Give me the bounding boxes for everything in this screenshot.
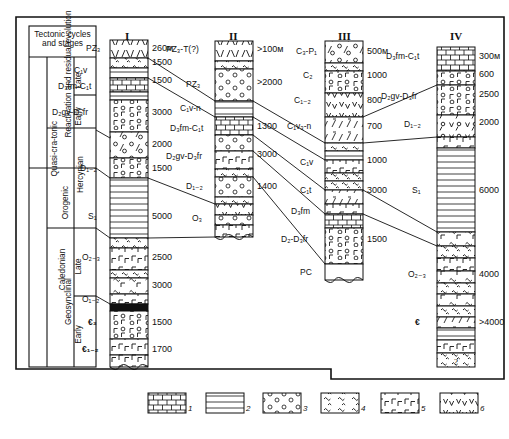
unit-label: O₁₋₂ bbox=[82, 295, 99, 304]
unit-thickness: 2000 bbox=[479, 118, 499, 127]
unit-label: D₁₋₂ bbox=[186, 182, 203, 191]
unit-label: D₂gv-D₃fr bbox=[166, 152, 202, 161]
unit-thickness: 3000 bbox=[257, 150, 277, 159]
unit-label: €₃ bbox=[88, 318, 97, 327]
unit-thickness: >4000 bbox=[479, 318, 504, 327]
svg-text:?: ? bbox=[454, 357, 458, 367]
unit-thickness: 5000 bbox=[152, 212, 172, 221]
unit-label: €₁₋₂ bbox=[82, 345, 99, 354]
unit-thickness: 2500 bbox=[479, 90, 499, 99]
unit-thickness: 4000 bbox=[479, 270, 499, 279]
unit-label: PZ₃ bbox=[86, 44, 100, 53]
unit-thickness: 800 bbox=[367, 96, 382, 105]
unit-thickness: >2000 bbox=[257, 78, 282, 87]
column-4-lithology: ? bbox=[437, 47, 475, 367]
unit-label: D₂-D₃fr bbox=[281, 235, 308, 244]
unit-label: D₃fm-C₁t bbox=[170, 124, 203, 133]
unit-thickness: 1500 bbox=[152, 76, 172, 85]
unit-thickness: 3000 bbox=[152, 281, 172, 290]
unit-label: O₂₋₃ bbox=[408, 270, 426, 279]
unit-label: € bbox=[415, 318, 420, 327]
unit-thickness: 1500 bbox=[152, 164, 172, 173]
unit-thickness: 1500 bbox=[152, 58, 172, 67]
column-header-3: III bbox=[338, 30, 351, 42]
unit-label: D₂gv-D₃fr bbox=[52, 108, 88, 117]
stage-reactivation: Reactivation and residual evolution bbox=[64, 58, 73, 138]
unit-label: D₁₋₂ bbox=[80, 164, 97, 173]
unit-thickness: 1000 bbox=[367, 156, 387, 165]
stage-quasicratonic: Quasi-cra-tonic bbox=[50, 129, 59, 177]
unit-thickness: 1700 bbox=[152, 345, 172, 354]
unit-label: D₂gv-D₃fr bbox=[381, 92, 417, 101]
stratigraphic-correlation-diagram: ? Tectonic cycles and stages Hercynian C… bbox=[0, 0, 509, 439]
unit-thickness: 3000 bbox=[152, 108, 172, 117]
column-3-lithology bbox=[325, 41, 363, 283]
stage-geosynclinal: Geosynclinal bbox=[64, 257, 73, 347]
legend-swatches bbox=[148, 393, 478, 413]
unit-label: C₁v bbox=[74, 66, 87, 75]
legend-number: 5 bbox=[421, 404, 425, 413]
unit-thickness: 2500 bbox=[152, 253, 172, 262]
unit-label: C₁v₃-n bbox=[287, 122, 311, 131]
unit-label: C₁t bbox=[300, 186, 311, 195]
unit-label: PZ₃-T(?) bbox=[166, 45, 199, 54]
unit-label: O₃ bbox=[192, 214, 202, 223]
unit-label: D₃fm bbox=[291, 207, 310, 216]
unit-label: C₃-P₁ bbox=[296, 47, 317, 56]
column-header-2: II bbox=[229, 30, 238, 42]
unit-thickness: 600 bbox=[479, 70, 494, 79]
unit-label: C₂ bbox=[303, 71, 312, 80]
unit-label: S₁ bbox=[88, 212, 97, 221]
unit-label: C₁₋₂ bbox=[294, 96, 311, 105]
unit-label: S₁ bbox=[412, 186, 421, 195]
unit-thickness: 2000 bbox=[152, 140, 172, 149]
unit-label: D₃fm-C₁t bbox=[58, 82, 91, 91]
unit-thickness: 1000 bbox=[367, 71, 387, 80]
unit-thickness: 3000 bbox=[367, 186, 387, 195]
unit-label: D₁₋₂ bbox=[404, 120, 421, 129]
column-header-1: I bbox=[125, 30, 129, 42]
stage-orogenic: Orogenic bbox=[61, 169, 70, 237]
legend-number: 6 bbox=[480, 404, 484, 413]
unit-thickness: 6000 bbox=[479, 186, 499, 195]
unit-label: C₁v bbox=[300, 158, 313, 167]
unit-thickness: 1500 bbox=[152, 318, 172, 327]
legend-number: 4 bbox=[361, 404, 365, 413]
unit-thickness: 300м bbox=[479, 52, 500, 61]
unit-thickness: 1300 bbox=[257, 122, 277, 131]
unit-thickness: 1400 bbox=[257, 182, 277, 191]
unit-label: C₁v-n bbox=[180, 104, 201, 113]
legend-number: 3 bbox=[303, 404, 307, 413]
unit-thickness: 1500 bbox=[367, 235, 387, 244]
unit-thickness: >100м bbox=[257, 45, 283, 54]
unit-label: PC bbox=[300, 268, 312, 277]
column-1-lithology bbox=[110, 40, 148, 370]
unit-label: PZ₃ bbox=[186, 80, 200, 89]
unit-label: O₂₋₃ bbox=[82, 253, 100, 262]
unit-label: D₃fm-C₁t bbox=[386, 52, 419, 61]
unit-thickness: 700 bbox=[367, 122, 382, 131]
column-header-4: IV bbox=[450, 30, 462, 42]
column-2-lithology bbox=[215, 41, 253, 240]
legend-number: 2 bbox=[246, 404, 250, 413]
legend-number: 1 bbox=[188, 404, 192, 413]
